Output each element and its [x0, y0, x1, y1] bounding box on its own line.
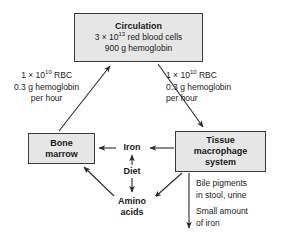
node-iron[interactable]: Iron: [118, 142, 146, 152]
output-label-bile-pigments: Bile pigments in stool, urine: [196, 178, 247, 201]
node-tissue-macrophage-system[interactable]: Tissue macrophage system: [175, 131, 266, 172]
node-circulation[interactable]: Circulation 3 × 1013 red blood cells 900…: [74, 13, 203, 62]
flux-left-line2: 0.3 g hemoglobin: [14, 82, 79, 94]
node-amino-acids[interactable]: Amino acids: [108, 196, 156, 218]
node-circulation-hemoglobin-mass: 900 g hemoglobin: [105, 43, 173, 54]
node-circulation-rbc-count: 3 × 1013 red blood cells: [95, 32, 183, 43]
edge-macrophage-to-amino-acids: [155, 173, 182, 197]
flux-left-suffix: RBC: [52, 70, 72, 80]
node-macrophage-line2: macrophage: [194, 146, 248, 157]
bile-pigments-line2: in stool, urine: [196, 190, 247, 202]
flux-left-line3: per hour: [14, 93, 79, 105]
rbc-count-suffix: red blood cells: [125, 32, 182, 42]
flux-right-prefix: 1 × 10: [166, 70, 190, 80]
node-macrophage-line1: Tissue: [206, 135, 234, 146]
node-diet[interactable]: Diet: [118, 166, 146, 176]
flux-right-exponent: 10: [190, 69, 197, 75]
edge-amino-acids-to-bone-marrow: [84, 167, 114, 196]
node-bone-marrow-line2: marrow: [45, 149, 78, 160]
node-bone-marrow-line1: Bone: [50, 138, 73, 149]
flux-right-suffix: RBC: [197, 70, 217, 80]
node-bone-marrow[interactable]: Bone marrow: [28, 133, 95, 164]
flux-left-line1: 1 × 1010 RBC: [14, 70, 79, 82]
rbc-count-prefix: 3 × 10: [95, 32, 119, 42]
flux-right-line3: per hour: [166, 93, 231, 105]
output-label-iron-loss: Small amount of iron: [196, 206, 248, 229]
flux-label-production: 1 × 1010 RBC 0.3 g hemoglobin per hour: [14, 70, 79, 105]
node-amino-acids-line1: Amino: [108, 196, 156, 207]
node-macrophage-line3: system: [205, 157, 236, 168]
iron-loss-line2: of iron: [196, 218, 248, 230]
iron-loss-line1: Small amount: [196, 206, 248, 218]
flux-left-prefix: 1 × 10: [21, 70, 45, 80]
rbc-iron-cycle-diagram: Circulation 3 × 1013 red blood cells 900…: [0, 0, 281, 244]
flux-label-destruction: 1 × 1010 RBC 0.3 g hemoglobin per hour: [166, 70, 231, 105]
flux-right-line1: 1 × 1010 RBC: [166, 70, 231, 82]
flux-right-line2: 0.3 g hemoglobin: [166, 82, 231, 94]
node-amino-acids-line2: acids: [108, 207, 156, 218]
flux-left-exponent: 10: [45, 69, 52, 75]
bile-pigments-line1: Bile pigments: [196, 178, 247, 190]
